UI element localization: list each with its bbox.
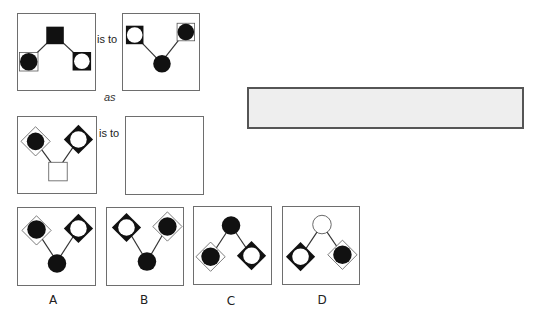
option-c-panel[interactable] [193, 206, 272, 285]
target-result-panel-empty [125, 116, 204, 195]
target-panel [17, 116, 97, 194]
white-circle-shape [243, 247, 260, 264]
black-circle-shape [27, 220, 46, 239]
option-d-panel[interactable] [282, 206, 360, 285]
black-square-shape [46, 27, 64, 45]
black-circle-shape [20, 53, 38, 71]
target-figure [18, 117, 96, 193]
option-b-panel[interactable] [106, 207, 184, 286]
option-b-figure [107, 208, 183, 285]
option-a-panel[interactable] [17, 207, 96, 286]
is-to-label: is to [97, 33, 117, 45]
option-a-figure [18, 208, 95, 285]
black-circle-shape [201, 247, 220, 266]
black-circle-shape [178, 24, 195, 41]
option-d-label[interactable]: D [312, 293, 332, 307]
option-d-figure [283, 207, 359, 284]
is-to-label: is to [99, 127, 119, 139]
as-label: as [104, 91, 116, 103]
black-circle-shape [222, 216, 241, 235]
option-c-label[interactable]: C [221, 294, 241, 308]
black-circle-shape [48, 254, 67, 273]
white-circle-shape [70, 131, 87, 148]
white-circle-shape [118, 219, 135, 236]
answer-box[interactable] [247, 87, 524, 129]
white-circle-shape [292, 248, 309, 265]
source-result-figure [123, 14, 199, 90]
black-circle-shape [158, 217, 177, 236]
option-b-label[interactable]: B [134, 293, 154, 307]
option-a-label[interactable]: A [43, 293, 63, 307]
white-circle-shape [313, 215, 332, 234]
option-c-figure [194, 207, 271, 284]
black-circle-shape [27, 133, 45, 151]
white-circle-shape [74, 53, 90, 69]
black-circle-shape [333, 246, 352, 265]
white-square-shape [49, 162, 68, 181]
white-circle-shape [127, 27, 143, 43]
black-circle-shape [138, 252, 157, 271]
black-circle-shape [153, 55, 171, 73]
source-panel [17, 13, 96, 91]
white-circle-shape [70, 220, 87, 237]
source-result-panel [122, 13, 200, 91]
source-figure [18, 14, 95, 90]
